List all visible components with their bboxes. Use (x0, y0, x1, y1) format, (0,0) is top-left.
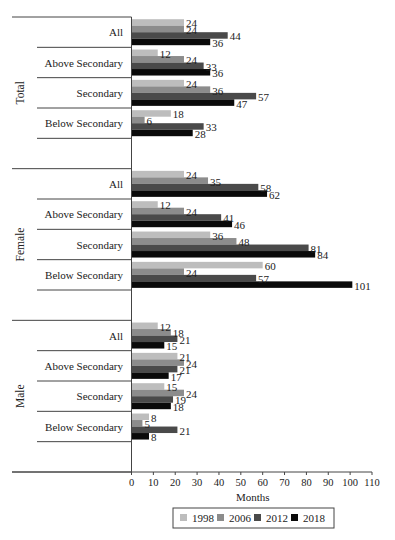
bar-1998 (132, 323, 158, 330)
x-tick-label: 60 (257, 477, 268, 488)
group-label: Secondary (77, 239, 124, 251)
group-label: Below Secondary (45, 421, 123, 433)
value-label: 35 (210, 176, 222, 188)
value-label: 8 (151, 431, 157, 443)
bar-2018 (132, 251, 316, 257)
section-label-male: Male (14, 384, 26, 408)
bar-2006 (132, 117, 145, 124)
bar-2006 (132, 420, 143, 427)
value-label: 12 (160, 321, 171, 333)
value-label: 12 (160, 48, 171, 60)
bar-2018 (132, 281, 353, 288)
value-label: 28 (195, 128, 207, 140)
value-label: 47 (236, 98, 248, 110)
group-label: Above Secondary (44, 208, 123, 220)
bar-2018 (132, 39, 211, 46)
bar-2018 (132, 221, 233, 228)
bar-2006 (132, 86, 211, 93)
bar-2006 (132, 56, 184, 63)
bar-1998 (132, 19, 184, 26)
legend-label-1998: 1998 (192, 512, 215, 524)
bar-1998 (132, 262, 263, 269)
legend-swatch-2006 (217, 514, 224, 521)
value-label: 6 (147, 115, 153, 127)
value-label: 15 (166, 340, 178, 352)
value-label: 57 (258, 91, 270, 103)
value-label: 24 (186, 24, 198, 36)
value-label: 57 (258, 273, 270, 285)
value-label: 24 (186, 267, 198, 279)
x-tick-label: 20 (170, 477, 181, 488)
bar-2006 (132, 359, 184, 366)
value-label: 48 (238, 236, 250, 248)
value-label: 46 (234, 219, 246, 231)
bar-2018 (132, 403, 171, 410)
x-tick-label: 100 (342, 477, 358, 488)
value-label: 24 (186, 206, 198, 218)
legend: 1998200620122018 (173, 508, 334, 528)
bar-2006 (132, 268, 184, 275)
value-label: 41 (223, 212, 234, 224)
value-label: 18 (173, 108, 185, 120)
bar-1998 (132, 232, 211, 239)
value-label: 84 (317, 249, 329, 261)
x-tick-label: 70 (279, 477, 290, 488)
bar-2018 (132, 69, 211, 76)
value-label: 36 (212, 67, 224, 79)
legend-label-2012: 2012 (266, 512, 288, 524)
bar-2012 (132, 123, 204, 130)
value-label: 36 (212, 230, 224, 242)
bar-2012 (132, 245, 309, 252)
bar-2012 (132, 214, 222, 221)
legend-swatch-2012 (254, 514, 261, 521)
value-label: 62 (269, 189, 280, 201)
bar-2018 (132, 99, 235, 106)
grouped-bar-chart: 2424443612243336243657471863328243558621… (0, 0, 395, 540)
bar-2018 (132, 130, 193, 137)
value-label: 101 (354, 280, 371, 292)
value-label: 21 (179, 334, 190, 346)
legend-swatch-1998 (180, 514, 187, 521)
legend-label-2006: 2006 (229, 512, 252, 524)
section-label-female: Female (14, 228, 26, 262)
bar-1998 (132, 353, 178, 360)
bar-1998 (132, 383, 165, 390)
value-label: 33 (206, 121, 218, 133)
x-tick-label: 30 (192, 477, 203, 488)
value-label: 60 (265, 260, 277, 272)
legend-label-2018: 2018 (303, 512, 326, 524)
value-label: 24 (186, 54, 198, 66)
value-label: 24 (186, 78, 198, 90)
value-label: 8 (151, 412, 157, 424)
x-tick-label: 10 (148, 477, 159, 488)
group-label: Secondary (77, 87, 124, 99)
legend-swatch-2018 (291, 514, 298, 521)
x-tick-label: 110 (364, 477, 379, 488)
group-label: Below Secondary (45, 269, 123, 281)
bar-2012 (132, 396, 174, 403)
value-label: 36 (212, 85, 224, 97)
bar-1998 (132, 171, 184, 178)
bar-2006 (132, 208, 184, 215)
group-label: Below Secondary (45, 117, 123, 129)
group-label: Secondary (77, 390, 124, 402)
value-label: 21 (179, 425, 190, 437)
bar-2018 (132, 433, 149, 440)
bar-2018 (132, 342, 165, 349)
x-tick-label: 0 (129, 477, 134, 488)
value-label: 44 (230, 30, 242, 42)
x-tick-label: 50 (236, 477, 247, 488)
bar-2012 (132, 184, 259, 191)
value-label: 5 (144, 418, 150, 430)
x-tick-label: 40 (214, 477, 225, 488)
value-label: 15 (166, 381, 178, 393)
value-label: 24 (186, 169, 198, 181)
value-label: 12 (160, 199, 171, 211)
group-label: All (109, 178, 123, 190)
bar-2006 (132, 26, 184, 33)
bar-1998 (132, 201, 158, 208)
bar-2018 (132, 190, 268, 197)
group-label: All (109, 330, 123, 342)
bar-1998 (132, 50, 158, 57)
group-label: Above Secondary (44, 57, 123, 69)
